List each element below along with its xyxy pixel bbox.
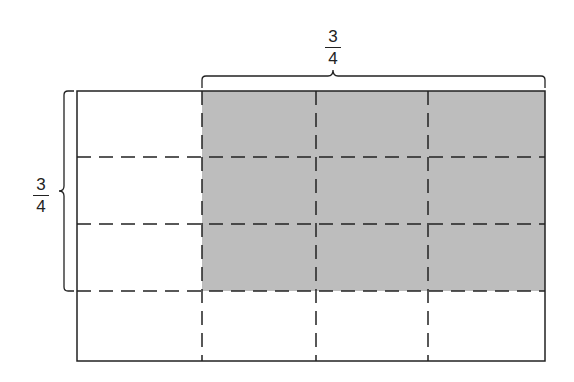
top-fraction-label: 3 4 bbox=[321, 28, 345, 67]
top-fraction-bar bbox=[325, 47, 341, 48]
shaded-region bbox=[202, 91, 545, 291]
left-fraction-label: 3 4 bbox=[29, 176, 53, 215]
top-fraction-denominator: 4 bbox=[321, 50, 345, 67]
top-fraction-numerator: 3 bbox=[321, 28, 345, 45]
left-fraction-numerator: 3 bbox=[29, 176, 53, 193]
top-brace bbox=[202, 70, 545, 88]
left-brace bbox=[59, 91, 74, 291]
left-fraction-denominator: 4 bbox=[29, 198, 53, 215]
left-fraction-bar bbox=[33, 195, 49, 196]
area-model-diagram bbox=[0, 0, 574, 382]
